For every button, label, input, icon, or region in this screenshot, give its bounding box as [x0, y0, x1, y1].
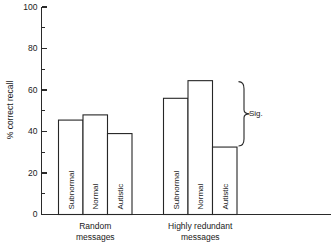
bar-label: Subnormal [172, 171, 181, 210]
bar-label: Normal [91, 183, 100, 209]
significance-label: Sig. [249, 109, 263, 118]
bar-label: Normal [196, 183, 205, 209]
y-tick-label: 100 [23, 2, 37, 12]
y-tick-label: 60 [28, 85, 38, 95]
y-tick-label: 0 [33, 209, 38, 219]
x-axis-group-label: Highly redundant [168, 221, 233, 231]
y-axis-ticks: 020406080100 [23, 2, 47, 220]
x-axis-labels: RandommessagesHighly redundantmessages [76, 221, 233, 242]
bar-chart: 020406080100% correct recallSubnormalNor… [0, 0, 332, 252]
y-tick-label: 20 [28, 168, 38, 178]
x-axis-group-label: messages [76, 232, 115, 242]
bars: SubnormalNormalAutisticSubnormalNormalAu… [59, 81, 238, 215]
bar-label: Autistic [116, 184, 125, 210]
bar-group: SubnormalNormalAutistic [164, 81, 238, 215]
bar-group: SubnormalNormalAutistic [59, 115, 133, 215]
x-axis-group-label: messages [181, 232, 220, 242]
bar-label: Subnormal [67, 171, 76, 210]
y-tick-label: 40 [28, 126, 38, 136]
significance-brace [239, 82, 250, 146]
y-tick-label: 80 [28, 43, 38, 53]
y-axis-title: % correct recall [5, 81, 15, 140]
chart-container: 020406080100% correct recallSubnormalNor… [0, 0, 332, 252]
annotations: Sig. [239, 82, 263, 146]
x-axis-group-label: Random [79, 221, 111, 231]
bar-label: Autistic [221, 184, 230, 210]
